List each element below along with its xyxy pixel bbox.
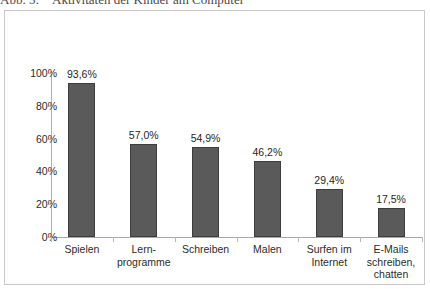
bar-value-label: 54,9% xyxy=(175,132,237,144)
x-axis-category-label-line: Malen xyxy=(237,243,299,256)
x-axis-category-label: E-Mailsschreiben,chatten xyxy=(360,243,422,281)
bar-value-label: 29,4% xyxy=(298,174,360,186)
x-axis-category-label-line: chatten xyxy=(360,268,422,281)
x-axis-category-label-line: Spielen xyxy=(51,243,113,256)
figure-caption-number: Abb. 3: xyxy=(0,0,52,8)
x-axis-tick-mark xyxy=(113,237,114,242)
bar-value-label: 17,5% xyxy=(360,193,422,205)
x-axis-category-label: Schreiben xyxy=(175,243,237,256)
x-axis-tick-mark xyxy=(422,237,423,242)
x-axis-tick-mark xyxy=(51,237,52,242)
bar xyxy=(130,144,157,237)
y-axis-tick-mark xyxy=(47,139,52,140)
x-axis-category-label-line: schreiben, xyxy=(360,256,422,269)
bar xyxy=(378,208,405,237)
y-axis-line xyxy=(51,71,52,239)
x-axis-tick-mark xyxy=(237,237,238,242)
x-axis-category-label-line: Schreiben xyxy=(175,243,237,256)
y-axis-tick-mark xyxy=(47,106,52,107)
x-axis-category-label: Malen xyxy=(237,243,299,256)
chart-frame: 0%20%40%60%80%100% 93,6%57,0%54,9%46,2%2… xyxy=(4,10,425,285)
x-axis-category-label-line: Surfen im xyxy=(298,243,360,256)
x-axis-category-label-line: Lern- xyxy=(113,243,175,256)
x-axis-category-label-line: E-Mails xyxy=(360,243,422,256)
x-axis-tick-mark xyxy=(175,237,176,242)
x-axis-category-label-line: Internet xyxy=(298,256,360,269)
figure-caption-text: Aktivitäten der Kinder am Computer xyxy=(52,0,244,7)
y-axis-tick-mark xyxy=(47,171,52,172)
bar xyxy=(316,189,343,237)
x-axis-category-label-line: programme xyxy=(113,256,175,269)
figure-caption: Abb. 3:Aktivitäten der Kinder am Compute… xyxy=(0,0,430,8)
x-axis-tick-mark xyxy=(360,237,361,242)
bar xyxy=(192,147,219,237)
x-axis-category-label: Surfen imInternet xyxy=(298,243,360,268)
y-axis-tick-mark xyxy=(47,204,52,205)
x-axis-tick-mark xyxy=(298,237,299,242)
bar-value-label: 46,2% xyxy=(237,146,299,158)
bar-value-label: 93,6% xyxy=(51,68,113,80)
bar xyxy=(254,161,281,237)
x-axis-category-label: Spielen xyxy=(51,243,113,256)
bar xyxy=(68,83,95,237)
x-axis-category-label: Lern-programme xyxy=(113,243,175,268)
bar-value-label: 57,0% xyxy=(113,129,175,141)
